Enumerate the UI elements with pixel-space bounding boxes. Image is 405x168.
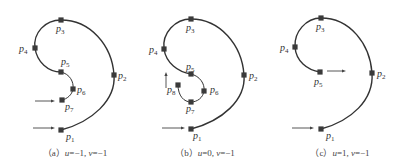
direction-arrow-icon	[327, 69, 346, 72]
panel-caption: （a）u=−1, v=−1	[43, 148, 107, 158]
control-point-marker	[59, 97, 64, 102]
control-point-marker	[161, 46, 166, 51]
point-label: p6	[209, 84, 219, 97]
curve-segment	[35, 20, 114, 130]
point-label: p1	[325, 130, 335, 143]
control-point-marker	[318, 126, 323, 131]
point-label: p4	[279, 42, 289, 55]
curve-segment	[61, 72, 73, 100]
curve-segment	[295, 18, 372, 129]
point-label: p1	[65, 131, 75, 144]
point-label: p5	[313, 76, 323, 89]
control-point-marker	[292, 44, 297, 49]
point-label: p3	[55, 23, 65, 36]
control-point-marker	[111, 72, 116, 77]
point-label: p2	[248, 70, 258, 83]
panel-b: p1p2p3p4p5p6p7p8（b）u=0, v=−1	[148, 16, 258, 158]
panel-caption: （b）u=0, v=−1	[175, 148, 235, 158]
curve-segment	[164, 19, 244, 129]
panel-caption: （c）u=1, v=−1	[310, 148, 369, 158]
point-label: p3	[315, 21, 325, 34]
control-point-marker	[58, 127, 63, 132]
point-label: p4	[148, 44, 158, 57]
point-label: p2	[117, 70, 127, 83]
point-label: p5	[60, 56, 70, 69]
direction-arrow-icon	[35, 99, 55, 102]
direction-arrow-icon	[162, 126, 185, 129]
control-point-marker	[58, 69, 63, 74]
curve-figure: p1p2p3p4p5p6p7（a）u=−1, v=−1 p1p2p3p4p5p6…	[0, 0, 405, 168]
point-label: p1	[192, 130, 202, 143]
control-point-marker	[175, 82, 180, 87]
control-point-marker	[58, 17, 63, 22]
point-label: p4	[18, 43, 28, 56]
point-label: p2	[376, 68, 386, 81]
control-point-marker	[241, 72, 246, 77]
panel-a: p1p2p3p4p5p6p7（a）u=−1, v=−1	[18, 17, 127, 158]
point-label: p3	[185, 22, 195, 35]
control-point-marker	[201, 88, 206, 93]
control-point-marker	[369, 70, 374, 75]
point-label: p7	[185, 103, 195, 116]
control-point-marker	[317, 69, 322, 74]
point-label: p6	[76, 84, 86, 97]
panel-c: p1p2p3p4p5（c）u=1, v=−1	[279, 15, 386, 158]
control-point-marker	[32, 45, 37, 50]
control-point-marker	[188, 16, 193, 21]
direction-arrow-icon	[292, 126, 314, 129]
point-label: p8	[166, 84, 176, 97]
curve-segment	[178, 74, 204, 102]
point-label: p7	[64, 101, 74, 114]
direction-arrow-icon	[33, 126, 55, 129]
control-point-marker	[318, 15, 323, 20]
control-point-marker	[70, 86, 75, 91]
